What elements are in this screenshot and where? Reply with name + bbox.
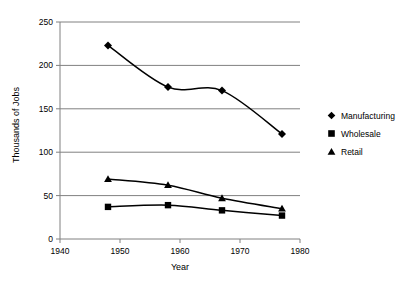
square-marker xyxy=(219,207,225,213)
diamond-marker xyxy=(218,87,226,95)
series-line-manufacturing xyxy=(108,45,282,134)
x-tick-label: 1940 xyxy=(51,246,70,256)
square-marker xyxy=(165,202,171,208)
x-axis-ticks: 19401950196019701980 xyxy=(51,239,310,256)
x-tick-label: 1980 xyxy=(291,246,310,256)
gridlines xyxy=(60,22,300,196)
y-axis-title: Thousands of Jobs xyxy=(11,65,21,185)
square-marker xyxy=(105,204,111,210)
y-axis-ticks: 050100150200250 xyxy=(39,17,60,244)
legend-label: Manufacturing xyxy=(341,111,395,121)
y-tick-label: 50 xyxy=(44,191,54,201)
square-marker-icon xyxy=(327,129,341,138)
chart-legend: ManufacturingWholesaleRetail xyxy=(327,108,395,162)
legend-item-wholesale[interactable]: Wholesale xyxy=(327,126,395,141)
diamond-marker-icon xyxy=(327,111,341,120)
y-tick-label: 0 xyxy=(48,234,53,244)
legend-label: Wholesale xyxy=(341,129,381,139)
data-series-group xyxy=(104,41,286,218)
square-marker xyxy=(279,212,285,218)
diamond-marker xyxy=(164,83,172,91)
legend-item-manufacturing[interactable]: Manufacturing xyxy=(327,108,395,123)
series-line-retail xyxy=(108,179,282,209)
x-tick-label: 1970 xyxy=(231,246,250,256)
x-axis-title: Year xyxy=(60,262,300,272)
legend-label: Retail xyxy=(341,147,363,157)
y-tick-label: 150 xyxy=(39,104,53,114)
triangle-marker-icon xyxy=(327,147,341,156)
x-tick-label: 1950 xyxy=(111,246,130,256)
y-tick-label: 200 xyxy=(39,60,53,70)
y-tick-label: 100 xyxy=(39,147,53,157)
y-tick-label: 250 xyxy=(39,17,53,27)
x-tick-label: 1960 xyxy=(171,246,190,256)
series-line-wholesale xyxy=(108,205,282,216)
legend-item-retail[interactable]: Retail xyxy=(327,144,395,159)
jobs-line-chart: 050100150200250 19401950196019701980 Tho… xyxy=(0,0,413,292)
